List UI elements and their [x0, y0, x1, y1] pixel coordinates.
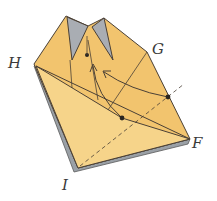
- label-g: G: [152, 40, 164, 58]
- origami-diagram: [0, 0, 217, 201]
- label-i: I: [62, 176, 68, 194]
- label-h: H: [8, 54, 21, 72]
- label-f: F: [192, 134, 202, 152]
- fold-point-right: [166, 95, 171, 100]
- fold-point-center: [120, 116, 125, 121]
